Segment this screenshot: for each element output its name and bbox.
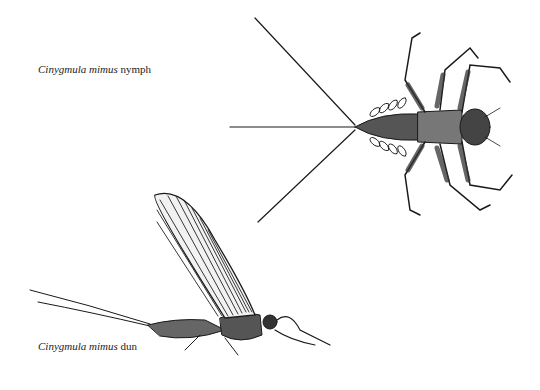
dun-illustration xyxy=(0,0,540,390)
illustration-plate: Cinygmula mimus nymph Cinygmula mimus du… xyxy=(0,0,540,390)
